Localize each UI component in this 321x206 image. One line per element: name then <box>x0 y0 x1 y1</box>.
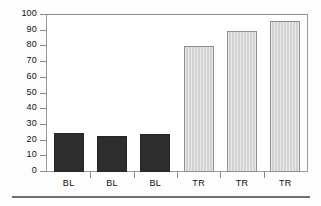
y-axis-tick-label: 40 <box>27 102 37 112</box>
x-axis-tick-mark <box>90 172 91 178</box>
y-axis-tick-mark <box>40 77 46 78</box>
bar <box>54 133 84 172</box>
x-axis-tick-label: BL <box>134 178 177 189</box>
y-axis-tick-label: 50 <box>27 87 37 97</box>
y-axis-tick-mark <box>40 30 46 31</box>
y-axis-tick-mark <box>40 124 46 125</box>
bar <box>140 134 170 172</box>
y-axis-tick-label: 30 <box>27 118 37 128</box>
y-axis-tick-mark <box>40 45 46 46</box>
x-axis-tick-mark <box>220 172 221 178</box>
x-axis-tick-label: TR <box>220 178 263 189</box>
chart-figure: 0102030405060708090100 BLBLBLTRTRTR <box>0 0 321 206</box>
x-axis-tick-mark <box>177 172 178 178</box>
y-axis-tick-label: 70 <box>27 55 37 65</box>
bar <box>184 46 214 172</box>
y-axis-tick-mark <box>40 93 46 94</box>
footer-divider <box>12 196 310 198</box>
bar <box>97 136 127 172</box>
y-axis-tick-label: 0 <box>32 165 37 175</box>
y-axis-tick-mark <box>40 155 46 156</box>
y-axis-tick-mark <box>40 14 46 15</box>
x-axis-tick-label: TR <box>177 178 220 189</box>
y-axis-tick-label: 80 <box>27 39 37 49</box>
y-axis: 0102030405060708090100 <box>0 14 46 172</box>
x-axis: BLBLBLTRTRTR <box>47 172 307 194</box>
y-axis-tick-label: 90 <box>27 24 37 34</box>
y-axis-tick-label: 20 <box>27 134 37 144</box>
x-axis-tick-mark <box>134 172 135 178</box>
y-axis-tick-label: 10 <box>27 149 37 159</box>
y-axis-tick-mark <box>40 140 46 141</box>
x-axis-tick-label: BL <box>90 178 133 189</box>
x-axis-tick-mark <box>264 172 265 178</box>
y-axis-tick-mark <box>40 108 46 109</box>
y-axis-tick-label: 60 <box>27 71 37 81</box>
y-axis-tick-mark <box>40 171 46 172</box>
y-axis-tick-mark <box>40 61 46 62</box>
y-axis-tick-label: 100 <box>21 8 37 18</box>
bar <box>227 31 257 172</box>
bar <box>270 21 300 172</box>
x-axis-tick-label: BL <box>47 178 90 189</box>
bar-series-container <box>47 15 307 172</box>
x-axis-tick-label: TR <box>264 178 307 189</box>
